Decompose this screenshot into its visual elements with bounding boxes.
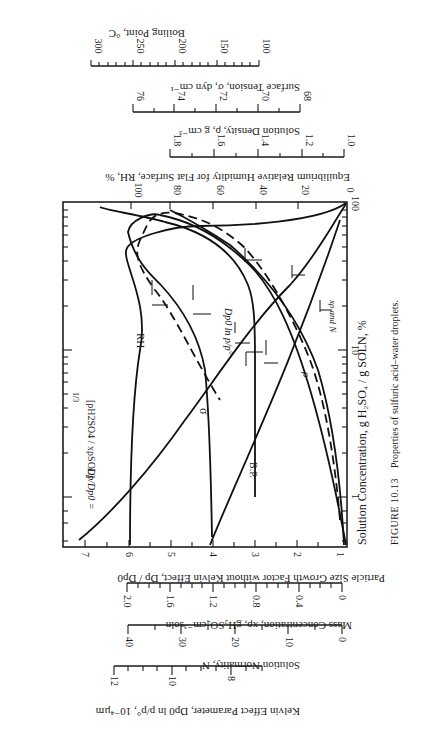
rh-tick-100: 100 bbox=[133, 183, 144, 198]
norm-tick-40: 40 bbox=[124, 637, 135, 647]
growth-eq-rhs: [ρH2SO4 / xρSOL] bbox=[86, 400, 97, 478]
st-tick-68: 68 bbox=[302, 91, 313, 101]
bp-tick-100: 100 bbox=[261, 39, 272, 54]
x-tick-100: 100 bbox=[350, 196, 361, 211]
density-tick-1.0: 1.0 bbox=[346, 134, 357, 147]
kelvin-axis-label: Kelvin Effect Parameter, Dp0 ln p/p°, 10… bbox=[95, 706, 300, 718]
figure-number: FIGURE 10.13 bbox=[389, 478, 400, 545]
growth-tick-2: 2 bbox=[292, 552, 303, 557]
norm-tick-30: 30 bbox=[177, 637, 188, 647]
kelvin-curve-label: Dp0 ln p/p° bbox=[223, 307, 234, 355]
norm-tick-10: 10 bbox=[284, 637, 295, 647]
st-axis-label: Surface Tension, σ, dyn cm⁻¹ bbox=[170, 82, 300, 94]
bp-tick-300: 300 bbox=[93, 39, 104, 54]
growth-eq-exponent: 1/3 bbox=[71, 392, 80, 402]
xp-n-curve-label: xρ and N bbox=[328, 299, 338, 333]
kelvin-parameter-curve bbox=[137, 213, 340, 520]
rh-tick-0: 0 bbox=[345, 188, 356, 193]
mass-tick-0.4: 0.4 bbox=[294, 595, 305, 608]
rh-tick-20: 20 bbox=[300, 185, 311, 195]
growth-tick-5: 5 bbox=[166, 552, 177, 557]
x-axis-label: Solution Concentration, g H₂SO₄ / g SOLN… bbox=[355, 320, 369, 545]
growth-tick-7: 7 bbox=[80, 552, 91, 557]
mass-tick-1.2: 1.2 bbox=[208, 595, 219, 608]
kelvin-tick-8: 8 bbox=[226, 676, 237, 681]
bp-tick-150: 150 bbox=[219, 39, 230, 54]
norm-tick-20: 20 bbox=[230, 637, 241, 647]
mass-tick-2.0: 2.0 bbox=[122, 595, 133, 608]
surface-tension-axis: 76 74 72 70 68 Surface Tension, σ, dyn c… bbox=[133, 82, 313, 112]
mass-tick-0: 0 bbox=[337, 595, 348, 600]
growth-tick-4: 4 bbox=[208, 552, 219, 557]
bp-axis-label: Boiling Point, °C bbox=[109, 28, 185, 40]
growth-tick-6: 6 bbox=[124, 552, 135, 557]
sigma-curve-label: σ bbox=[197, 408, 211, 415]
bp-curve-label: B.P. bbox=[248, 462, 259, 478]
rh-curve-label: RH bbox=[135, 333, 147, 348]
density-curve bbox=[210, 220, 340, 545]
rh-tick-80: 80 bbox=[172, 185, 183, 195]
plot-area: RH σ B.P. ρ xρ and N Dp0 ln p/p° Dp/Dp0 … bbox=[63, 202, 347, 547]
sulfuric-acid-droplet-chart: 300 250 200 150 100 Boiling Point, °C 76… bbox=[0, 0, 428, 747]
density-tick-1.2: 1.2 bbox=[304, 134, 315, 147]
boiling-point-axis: 300 250 200 150 100 Boiling Point, °C bbox=[91, 28, 272, 66]
density-axis: 1.8 1.6 1.4 1.2 1.0 Solution Density, ρ,… bbox=[170, 126, 357, 157]
kelvin-tick-10: 10 bbox=[167, 676, 178, 686]
figure-caption: FIGURE 10.13 Properties of sulfuric acid… bbox=[389, 300, 400, 545]
rho-curve-label: ρ bbox=[301, 371, 313, 377]
figure-caption-text: Properties of sulfuric acid–water drople… bbox=[389, 300, 400, 468]
st-tick-76: 76 bbox=[135, 91, 146, 101]
kelvin-tick-12: 12 bbox=[109, 676, 120, 686]
norm-tick-0: 0 bbox=[337, 637, 348, 642]
mass-axis-label: Mass Concentration, xρ, gH₂SO₄cm⁻³soln bbox=[165, 620, 352, 632]
mass-tick-1.6: 1.6 bbox=[165, 595, 176, 608]
rh-tick-40: 40 bbox=[258, 185, 269, 195]
density-axis-label: Solution Density, ρ, g cm⁻³ bbox=[178, 126, 300, 138]
x-axis: 1 10 100 Solution Concentration, g H₂SO₄… bbox=[350, 196, 369, 545]
kelvin-axis: 12 10 8 Kelvin Effect Parameter, Dp0 ln … bbox=[95, 666, 300, 718]
rh-tick-60: 60 bbox=[215, 185, 226, 195]
mass-tick-0.8: 0.8 bbox=[251, 595, 262, 608]
growth-tick-1: 1 bbox=[335, 552, 346, 557]
growth-equation: Dp/Dp0 = [ρH2SO4 / xρSOL] 1/3 bbox=[71, 392, 97, 509]
growth-axis: 7 6 5 4 3 2 1 Particle Size Growth Facto… bbox=[80, 552, 385, 585]
growth-tick-3: 3 bbox=[250, 552, 261, 557]
